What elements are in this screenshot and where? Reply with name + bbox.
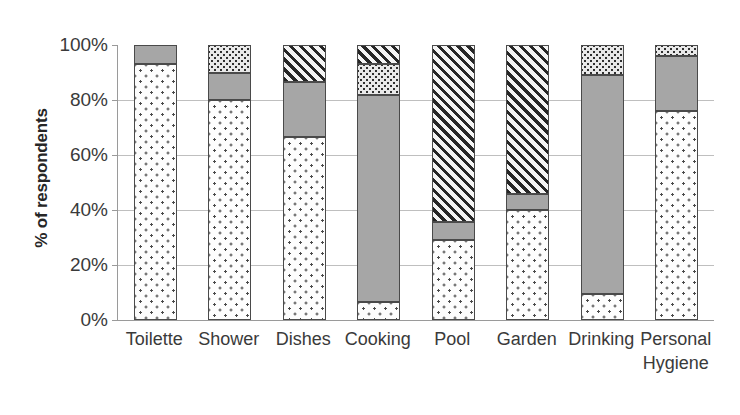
x-tick-label: Toilette [117, 327, 192, 376]
x-tick-label: Personal Hygiene [639, 327, 714, 376]
x-tick-label: Cooking [341, 327, 416, 376]
bar-segment[interactable] [506, 210, 549, 320]
y-tick-label: 60% [34, 144, 108, 166]
bar-segment[interactable] [134, 64, 177, 320]
bar-slot [118, 45, 193, 320]
bar-segment[interactable] [655, 111, 698, 320]
bar-segment[interactable] [432, 222, 475, 240]
x-tick-label: Shower [192, 327, 267, 376]
bar-segment[interactable] [134, 45, 177, 64]
x-tick-label: Garden [490, 327, 565, 376]
x-tick-label: Dishes [266, 327, 341, 376]
bar-slot [416, 45, 491, 320]
stacked-bar[interactable] [655, 45, 698, 320]
y-tick-label: 0% [34, 309, 108, 331]
stacked-bar[interactable] [506, 45, 549, 320]
bar-segment[interactable] [655, 45, 698, 56]
bar-slot [267, 45, 342, 320]
y-tick-label: 100% [34, 34, 108, 56]
bar-segment[interactable] [357, 64, 400, 94]
bar-segment[interactable] [506, 194, 549, 211]
bar-segment[interactable] [208, 100, 251, 320]
bar-segment[interactable] [283, 82, 326, 137]
bar-segment[interactable] [208, 73, 251, 101]
bar-segment[interactable] [581, 294, 624, 320]
bar-slot [491, 45, 566, 320]
bar-segment[interactable] [357, 302, 400, 320]
bar-segment[interactable] [506, 45, 549, 194]
stacked-bar[interactable] [357, 45, 400, 320]
y-tick-label: 20% [34, 254, 108, 276]
bar-slot [193, 45, 268, 320]
bar-segment[interactable] [581, 75, 624, 294]
bar-slot [342, 45, 417, 320]
plot-area [117, 45, 714, 321]
bar-segment[interactable] [283, 137, 326, 320]
bar-segment[interactable] [581, 45, 624, 75]
bar-slot [565, 45, 640, 320]
x-axis-tick-labels: ToiletteShowerDishesCookingPoolGardenDri… [117, 327, 713, 376]
stacked-bar[interactable] [134, 45, 177, 320]
bar-segment[interactable] [432, 45, 475, 222]
y-axis-tick-labels: 0%20%40%60%80%100% [28, 0, 108, 415]
bar-segment[interactable] [655, 56, 698, 111]
x-tick-label: Pool [415, 327, 490, 376]
bar-segment[interactable] [357, 45, 400, 64]
stacked-bar[interactable] [208, 45, 251, 320]
bar-segment[interactable] [357, 95, 400, 303]
x-tick-label: Drinking [564, 327, 639, 376]
stacked-bar-chart: % of respondents 0%20%40%60%80%100% Toil… [0, 0, 740, 415]
stacked-bar[interactable] [283, 45, 326, 320]
bar-slot [640, 45, 715, 320]
stacked-bar[interactable] [581, 45, 624, 320]
bar-segment[interactable] [432, 240, 475, 320]
y-tick-label: 40% [34, 199, 108, 221]
bar-segment[interactable] [208, 45, 251, 73]
stacked-bar[interactable] [432, 45, 475, 320]
bar-group [118, 45, 714, 320]
y-axis-tick-mark [112, 320, 118, 321]
bar-segment[interactable] [283, 45, 326, 82]
y-tick-label: 80% [34, 89, 108, 111]
